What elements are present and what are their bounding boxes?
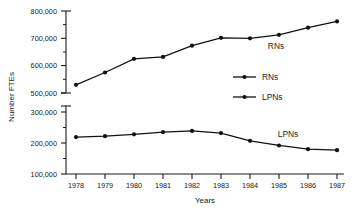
- data-point-lpns-1981: [161, 130, 165, 134]
- data-point-rns-1983: [219, 36, 223, 40]
- y-tick-label-200000: 200,000: [31, 139, 57, 148]
- data-point-lpns-1984: [248, 139, 252, 143]
- x-tick-label-1984: 1984: [242, 181, 258, 190]
- x-tick-label-1987: 1987: [329, 181, 345, 190]
- data-point-lpns-1986: [306, 147, 310, 151]
- y-axis-title-text: Number FTEs: [7, 72, 16, 122]
- y-tick-label-600000: 600,000: [31, 61, 57, 70]
- series-rns: [74, 19, 339, 87]
- data-point-rns-1986: [306, 26, 310, 30]
- chart-svg: Number FTEs 800,000 700,000 600,000 500,…: [0, 0, 356, 212]
- x-tick-label-1981: 1981: [155, 181, 171, 190]
- x-axis: 1978 1979 1980 1981 1982 1983 1984 1985 …: [66, 174, 345, 205]
- upper-panel-axis: 800,000 700,000 600,000 500,000: [31, 7, 71, 98]
- data-point-rns-1981: [161, 55, 165, 59]
- x-tick-label-1985: 1985: [271, 181, 287, 190]
- data-point-rns-1987: [335, 19, 339, 23]
- legend-item-rns[interactable]: RNs: [233, 72, 278, 82]
- series-line-rns: [76, 21, 337, 84]
- data-point-lpns-1985: [277, 143, 281, 147]
- x-tick-label-1980: 1980: [126, 181, 142, 190]
- y-axis-title: Number FTEs: [7, 72, 16, 122]
- data-point-lpns-1982: [190, 129, 194, 133]
- x-tick-label-1978: 1978: [68, 181, 84, 190]
- legend-item-lpns[interactable]: LPNs: [233, 92, 282, 102]
- data-point-rns-1979: [103, 70, 107, 74]
- chart-figure: Number FTEs 800,000 700,000 600,000 500,…: [0, 0, 356, 212]
- data-point-rns-1985: [277, 33, 281, 37]
- x-tick-label-1982: 1982: [184, 181, 200, 190]
- data-point-rns-1982: [190, 44, 194, 48]
- series-annotation-rns: RNs: [268, 41, 284, 51]
- x-tick-label-1986: 1986: [300, 181, 316, 190]
- x-tick-label-1983: 1983: [213, 181, 229, 190]
- x-axis-title-text: Years: [195, 196, 215, 205]
- data-point-lpns-1980: [132, 132, 136, 136]
- legend-marker-lpns: [242, 95, 246, 99]
- data-point-rns-1978: [74, 83, 78, 87]
- y-tick-label-500000: 500,000: [31, 89, 57, 98]
- data-point-lpns-1987: [335, 148, 339, 152]
- data-point-rns-1980: [132, 57, 136, 61]
- data-point-rns-1984: [248, 36, 252, 40]
- chart-legend: RNs LPNs: [233, 72, 282, 102]
- legend-label-lpns: LPNs: [262, 92, 282, 102]
- y-tick-label-800000: 800,000: [31, 7, 57, 16]
- legend-marker-rns: [242, 75, 246, 79]
- x-tick-label-1979: 1979: [97, 181, 113, 190]
- lower-panel-axis: 300,000 200,000 100,000: [31, 106, 71, 179]
- y-tick-label-700000: 700,000: [31, 34, 57, 43]
- y-tick-label-100000: 100,000: [31, 170, 57, 179]
- data-point-lpns-1979: [103, 134, 107, 138]
- y-tick-label-300000: 300,000: [31, 108, 57, 117]
- series-annotation-lpns: LPNs: [278, 129, 298, 139]
- data-point-lpns-1978: [74, 135, 78, 139]
- legend-label-rns: RNs: [262, 72, 278, 82]
- data-point-lpns-1983: [219, 131, 223, 135]
- series-lpns: [74, 129, 339, 152]
